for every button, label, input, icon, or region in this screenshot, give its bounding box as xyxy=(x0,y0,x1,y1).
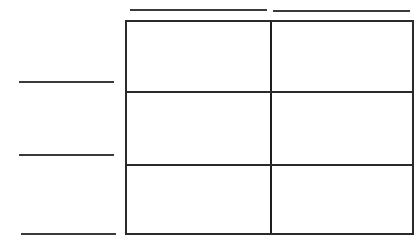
row-label-blank-2[interactable] xyxy=(19,154,114,156)
row-label-blank-3[interactable] xyxy=(21,233,116,235)
grid-cell-r1-c2[interactable] xyxy=(272,22,412,91)
grid-cell-r3-c1[interactable] xyxy=(127,166,270,233)
column-label-blank-1[interactable] xyxy=(130,9,267,11)
row-label-blank-1[interactable] xyxy=(19,81,114,83)
grid-cell-r2-c2[interactable] xyxy=(272,93,412,164)
grid-cell-r2-c1[interactable] xyxy=(127,93,270,164)
grid-cell-r3-c2[interactable] xyxy=(272,166,412,233)
column-label-blank-2[interactable] xyxy=(273,10,410,12)
grid-cell-r1-c1[interactable] xyxy=(127,22,270,91)
grid-table xyxy=(125,20,414,235)
